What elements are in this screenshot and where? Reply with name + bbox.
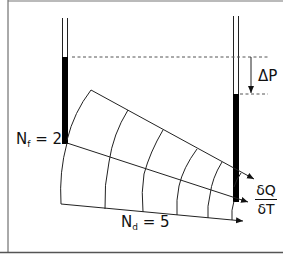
nf-symbol: N	[16, 130, 27, 148]
nf-value: = 2	[30, 130, 62, 148]
nd-value: = 5	[138, 213, 170, 231]
nd-symbol: N	[121, 213, 132, 231]
flow-lines	[61, 90, 254, 221]
nd-label: Nd = 5	[121, 215, 170, 232]
flow-rate-denominator: δT	[254, 200, 278, 216]
right-standpipe	[233, 16, 239, 202]
delta-p-label: ΔP	[258, 69, 277, 84]
left-standpipe	[62, 18, 68, 144]
flow-rate-numerator: δQ	[254, 183, 278, 199]
flow-rate-fraction: δQ δT	[254, 183, 278, 216]
flow-line-middle	[67, 143, 248, 202]
nf-label: Nf = 2	[16, 132, 62, 149]
equipotential-lines	[61, 90, 241, 220]
